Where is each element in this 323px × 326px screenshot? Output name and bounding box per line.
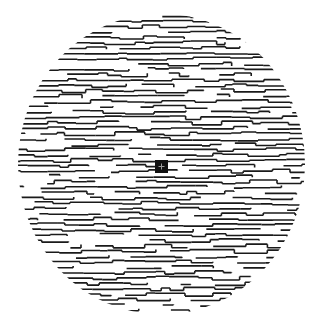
stereogram-pattern-canvas [0,0,323,326]
stereogram-figure: Single-image stereogram line pattern [0,0,323,326]
